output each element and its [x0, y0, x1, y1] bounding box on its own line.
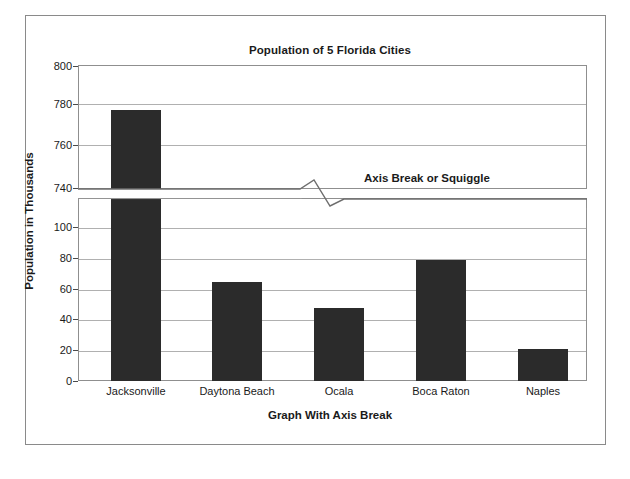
- squiggle-path-top: [78, 180, 587, 206]
- bar-boca-raton: [416, 260, 466, 381]
- bar-naples: [518, 349, 568, 381]
- bar-daytona-beach: [212, 282, 262, 381]
- chart-title: Population of 5 Florida Cities: [70, 44, 590, 56]
- y-axis-title: Population in Thousands: [23, 126, 35, 316]
- axis-break-squiggle: [78, 178, 587, 210]
- gridline-780: [79, 104, 586, 105]
- axis-break-annotation: Axis Break or Squiggle: [364, 172, 490, 184]
- x-axis-title: Graph With Axis Break: [70, 409, 590, 421]
- bar-ocala: [314, 308, 364, 381]
- figure-canvas: Population of 5 Florida Cities Populatio…: [0, 0, 630, 479]
- axis-break-squiggle-svg: [78, 178, 587, 210]
- bar-jacksonville-lower: [111, 199, 161, 381]
